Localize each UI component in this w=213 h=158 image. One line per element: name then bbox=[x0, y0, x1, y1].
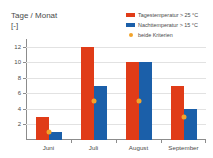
y-tick-label-6: 6 bbox=[18, 90, 21, 96]
y-tick-mark bbox=[23, 47, 26, 48]
y-tick-label-10: 10 bbox=[14, 59, 21, 65]
y-tick-mark bbox=[23, 78, 26, 79]
chart-container: Tage / Monat [-] Tagestemperatur > 25 °C… bbox=[0, 0, 213, 158]
bar-group-august bbox=[126, 39, 152, 140]
y-tick-mark bbox=[23, 124, 26, 125]
marker-beide-kriterien-august bbox=[136, 99, 141, 104]
y-tick-mark bbox=[23, 93, 26, 94]
y-axis-title-text: Tage / Monat bbox=[11, 11, 57, 20]
y-tick-label-2: 2 bbox=[18, 121, 21, 127]
y-tick-mark bbox=[23, 62, 26, 63]
y-axis-unit-text: [-] bbox=[11, 21, 57, 31]
bar-tagestemperatur-september bbox=[171, 86, 184, 140]
legend-label-beide-kriterien: beide Kriterien bbox=[138, 32, 173, 38]
marker-beide-kriterien-juni bbox=[46, 130, 51, 135]
bar-nachttemperatur-juli bbox=[94, 86, 107, 140]
x-tick-mark bbox=[205, 140, 206, 143]
y-tick-label-12: 12 bbox=[14, 44, 21, 50]
x-tick-mark bbox=[71, 140, 72, 143]
x-tick-mark bbox=[116, 140, 117, 143]
x-axis-label-september: September bbox=[168, 144, 198, 151]
y-tick-mark bbox=[23, 109, 26, 110]
legend-label-nachttemperatur: Nachttemperatur > 15 °C bbox=[138, 22, 198, 28]
bar-nachttemperatur-september bbox=[184, 109, 197, 140]
x-axis-label-juni: Juni bbox=[43, 144, 54, 151]
y-axis-title: Tage / Monat [-] bbox=[11, 11, 57, 30]
legend-label-tagestemperatur: Tagestemperatur > 25 °C bbox=[138, 12, 198, 18]
bar-group-september bbox=[171, 39, 197, 140]
legend-item-tagestemperatur: Tagestemperatur > 25 °C bbox=[126, 11, 213, 20]
marker-beide-kriterien-juli bbox=[91, 99, 96, 104]
legend-item-nachttemperatur: Nachttemperatur > 15 °C bbox=[126, 21, 213, 30]
chart-legend: Tagestemperatur > 25 °C Nachttemperatur … bbox=[126, 11, 213, 41]
marker-beide-kriterien-september bbox=[181, 114, 186, 119]
y-tick-label-8: 8 bbox=[18, 75, 21, 81]
x-axis-label-juli: Juli bbox=[89, 144, 98, 151]
bar-tagestemperatur-juni bbox=[36, 117, 49, 140]
bar-group-juni bbox=[36, 39, 62, 140]
x-axis-label-august: August bbox=[129, 144, 148, 151]
bar-group-juli bbox=[81, 39, 107, 140]
plot-area: 24681012 bbox=[26, 39, 206, 140]
legend-swatch-blue-icon bbox=[126, 23, 135, 27]
legend-swatch-red-icon bbox=[126, 13, 135, 17]
y-tick-label-4: 4 bbox=[18, 106, 21, 112]
bar-tagestemperatur-juli bbox=[81, 47, 94, 140]
x-tick-mark bbox=[161, 140, 162, 143]
legend-swatch-orange-dot-icon bbox=[129, 33, 133, 37]
